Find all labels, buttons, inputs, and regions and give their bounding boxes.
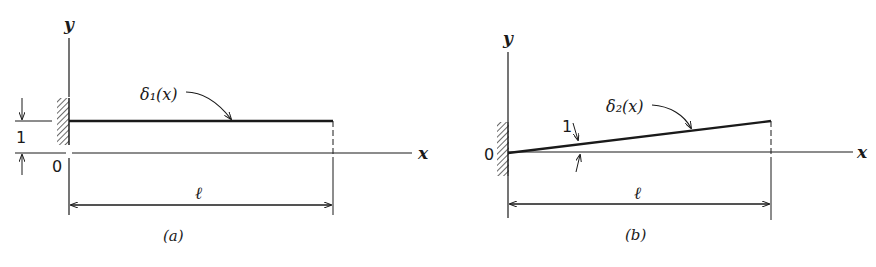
function-label-a: δ₁(x): [140, 85, 178, 104]
fixed-support-hatch-b: [497, 122, 509, 176]
panel-a: y x 1 0 δ₁(x) ℓ (a): [15, 14, 429, 245]
origin-label-a: 0: [52, 157, 62, 176]
length-label-b: ℓ: [634, 183, 641, 203]
caption-b: (b): [625, 226, 646, 244]
offset-label-a: 1: [16, 128, 26, 147]
leader-arrow-a: [186, 92, 231, 119]
length-label-a: ℓ: [195, 183, 202, 203]
origin-label-b: 0: [484, 145, 494, 164]
y-axis-label-b: y: [502, 28, 514, 48]
x-axis-label-a: x: [417, 143, 429, 163]
leader-arrow-b: [652, 105, 691, 128]
slope-label-b: 1: [562, 117, 572, 136]
y-axis-label-a: y: [63, 14, 75, 34]
caption-a: (a): [163, 227, 184, 245]
figure-canvas: y x 1 0 δ₁(x) ℓ (a) y: [0, 0, 876, 267]
beam-b: [508, 121, 771, 153]
slope-arrow-down-b: [573, 123, 578, 140]
slope-arrow-up-b: [576, 155, 580, 172]
x-axis-label-b: x: [856, 142, 868, 162]
function-label-b: δ₂(x): [606, 97, 644, 116]
panel-b: y 0 x 1 δ₂(x) ℓ (b): [484, 28, 868, 244]
fixed-support-hatch-a: [57, 98, 69, 145]
